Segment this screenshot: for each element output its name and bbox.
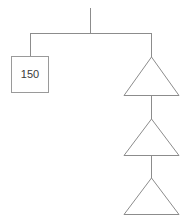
triangle-node-3[interactable] — [124, 178, 179, 215]
diagram-canvas: 150 — [0, 0, 190, 223]
box-node-label: 150 — [11, 69, 49, 80]
diagram-svg — [0, 0, 190, 223]
triangle-node-1[interactable] — [124, 57, 179, 96]
triangle-node-2[interactable] — [124, 119, 179, 156]
